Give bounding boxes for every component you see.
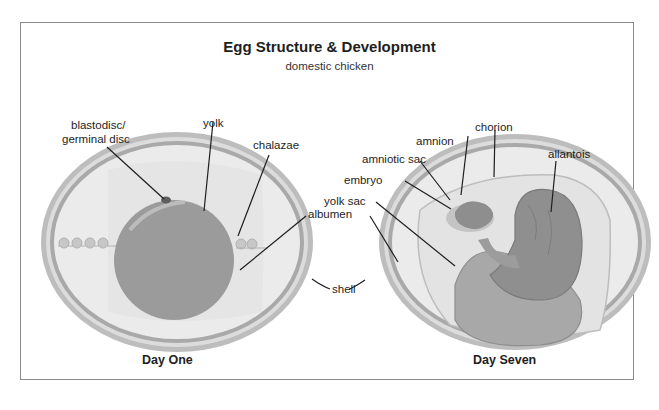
label-yolk-sac: yolk sac <box>324 194 366 208</box>
label-allantois: allantois <box>548 147 590 161</box>
label-embryo: embryo <box>344 173 382 187</box>
caption-day-seven: Day Seven <box>473 353 536 367</box>
label-chorion: chorion <box>475 120 513 134</box>
label-chalazae: chalazae <box>253 138 299 152</box>
label-amniotic-sac: amniotic sac <box>362 152 426 166</box>
day-seven-egg <box>379 134 651 350</box>
caption-day-one: Day One <box>142 353 193 367</box>
label-amnion: amnion <box>416 134 454 148</box>
day-one-egg <box>41 132 313 352</box>
label-albumen: albumen <box>308 207 352 221</box>
label-germinal-disc: germinal disc <box>62 132 130 146</box>
label-blastodisc: blastodisc/ <box>71 118 125 132</box>
yolk <box>114 200 234 320</box>
label-yolk: yolk <box>203 116 223 130</box>
label-shell: shell <box>332 282 356 296</box>
